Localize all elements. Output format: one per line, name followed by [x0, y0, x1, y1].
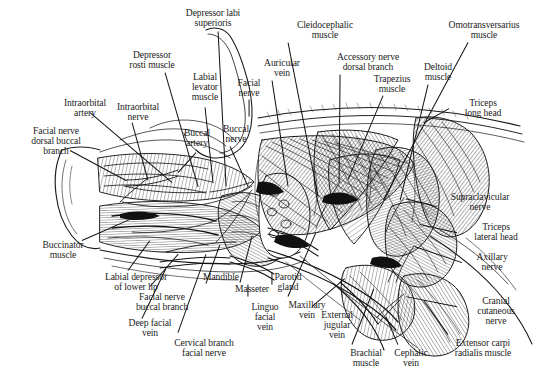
label-labial-levator-muscle: Labial levator muscle: [181, 72, 229, 103]
leader-cranial-cutaneous-nerve: [406, 296, 457, 307]
label-triceps-lateral-head: Triceps lateral head: [462, 222, 530, 242]
leader-labial-depressor-of-lower-lip: [128, 240, 151, 271]
label-facial-nerve-dorsal-buccal-branch: Facial nerve dorsal buccal branch: [15, 126, 97, 157]
label-brachial-muscle: Brachial muscle: [340, 348, 392, 368]
buccal-and-intraorbital-vessels: [120, 170, 178, 202]
leader-axillary-nerve: [415, 246, 462, 263]
label-labial-depressor-of-lower-lip: Labial depressor of lower lip: [90, 272, 182, 292]
label-intraorbital-nerve: Intraorbital nerve: [105, 102, 171, 122]
leader-cephalic-vein: [385, 316, 398, 344]
label-auricular-vein: Auricular vein: [255, 58, 309, 78]
label-buccinator-muscle: Buccinator muscle: [32, 240, 94, 260]
triceps-lateral-head-belly: [385, 202, 457, 287]
label-trapezius-muscle: Trapezius muscle: [364, 74, 420, 94]
label-linguo-facial-vein: Linguo facial vein: [243, 302, 287, 333]
label-supraclavicular-nerve: Supraclavicular nerve: [437, 192, 523, 212]
facial-vein-branches: [160, 242, 236, 268]
leader-buccal-nerve: [229, 146, 248, 186]
leader-buccinator-muscle: [82, 218, 132, 241]
leader-facial-nerve: [248, 100, 249, 117]
leader-trapezius-muscle: [347, 95, 383, 179]
label-buccal-artery: Buccal artery: [175, 128, 219, 148]
label-masseter-muscle: Masseter: [226, 284, 278, 294]
label-cleidocephalic-muscle: Cleidocephalic muscle: [283, 20, 367, 40]
label-facial-nerve: Facial nerve: [230, 78, 268, 98]
leader-triceps-lateral-head: [420, 224, 457, 233]
ink-shadows: [120, 181, 402, 268]
label-facial-nerve-buccal-branch: Facial nerve buccal branch: [122, 292, 202, 312]
label-deep-facial-vein: Deep facial vein: [118, 318, 182, 338]
label-triceps-long-head: Triceps long head: [455, 98, 511, 118]
label-axillary-nerve: Axillary nerve: [466, 252, 518, 272]
triceps-long-head-belly: [413, 117, 489, 237]
masseter-muscle-belly: [218, 193, 288, 267]
label-buccal-nerve: Buccal nerve: [214, 124, 258, 144]
leader-depressor-labi-superioris: [217, 32, 226, 187]
label-depressor-labi-superioris: Depressor labi superioris: [168, 8, 258, 28]
label-extensor-carpi-radialis-muscle: Extensor carpi radialis muscle: [438, 338, 528, 358]
shoulder-contour: [430, 230, 532, 344]
buccinator-plate: [100, 202, 262, 253]
label-accessory-nerve-dorsal-branch: Accessory nerve dorsal branch: [324, 52, 412, 72]
label-cephalic-vein: Cephalic vein: [385, 348, 437, 368]
label-deltoid-muscle: Deltoid muscle: [414, 62, 462, 82]
label-depressor-rosti-muscle: Depressor rosti muscle: [112, 50, 192, 70]
label-maxillary-vein: Maxillary vein: [279, 300, 335, 320]
leader-accessory-nerve-dorsal-branch: [338, 75, 340, 183]
label-omotransversarius-muscle: Omotransversarius muscle: [434, 20, 534, 40]
leader-auricular-vein: [271, 80, 288, 186]
interface-shading: [255, 152, 415, 222]
label-mandible: Mandible: [195, 272, 247, 282]
label-cranial-cutaneous-nerve: Cranial cutaneous nerve: [466, 296, 526, 327]
trapezius-muscle-belly: [314, 130, 398, 230]
parotid-gland-shape: [259, 173, 310, 258]
leader-extensor-carpi-radialis-muscle: [424, 300, 449, 335]
leader-supraclavicular-nerve: [406, 198, 437, 207]
anatomical-figure: Depressor labi superiorisDepressor rosti…: [0, 0, 536, 380]
label-cervical-branch-facial-nerve: Cervical branch facial nerve: [160, 338, 248, 358]
